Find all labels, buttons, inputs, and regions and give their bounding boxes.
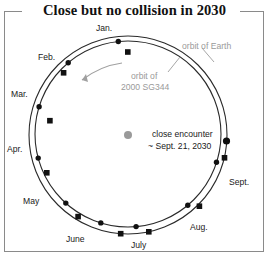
close-encounter-label-line2: ~ Sept. 21, 2030 <box>148 141 211 151</box>
close-encounter-marker <box>223 137 230 144</box>
orbit-direction-arrow <box>82 63 122 82</box>
asteroid-orbit-label-line1: orbit of <box>131 71 157 81</box>
month-label-sept: Sept. <box>229 177 249 187</box>
month-label-june: June <box>66 234 85 244</box>
month-label-july: July <box>131 240 146 250</box>
month-label-apr: Apr. <box>7 144 22 154</box>
earth-orbit-label: orbit of Earth <box>182 41 231 51</box>
sun-marker <box>124 131 132 139</box>
month-label-feb: Feb. <box>38 52 55 62</box>
month-label-mar: Mar. <box>11 89 28 99</box>
month-label-aug: Aug. <box>190 222 208 232</box>
asteroid-orbit-label-line2: 2000 SG344 <box>121 82 169 92</box>
close-encounter-label-line1: close encounter <box>152 129 213 139</box>
figure-container: Close but no collision in 2030 <box>0 0 269 267</box>
asteroid-orbit-leader-line <box>168 57 180 72</box>
month-label-jan: Jan. <box>96 23 112 33</box>
month-label-may: May <box>23 196 39 206</box>
